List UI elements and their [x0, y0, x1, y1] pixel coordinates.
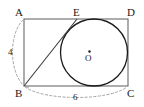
- vertex-label-c: C: [127, 88, 134, 99]
- measure-arc-ab: [13, 20, 24, 85]
- measure-label-ab: 4: [8, 48, 13, 57]
- inscribed-circle: [61, 19, 128, 86]
- vertex-label-a: A: [15, 7, 23, 18]
- rectangle-abcd: [24, 19, 128, 86]
- vertex-label-d: D: [127, 7, 135, 18]
- circle-center-label: O: [85, 54, 92, 63]
- vertex-label-e: E: [73, 7, 80, 18]
- measure-label-bc: 6: [73, 93, 78, 102]
- tangent-line-be: [24, 19, 77, 86]
- geometry-figure: A E D B C 4 6 O: [0, 0, 144, 107]
- vertex-label-b: B: [15, 88, 22, 99]
